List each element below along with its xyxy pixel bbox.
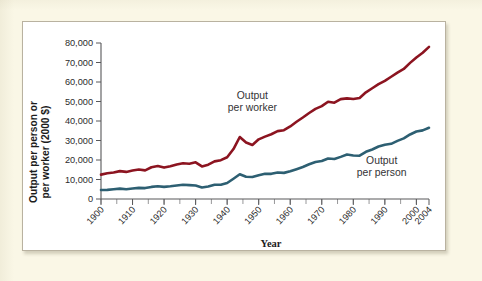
annotation-line1: Output: [237, 90, 268, 101]
y-tick-label: 80,000: [65, 38, 93, 48]
annotation-output-per-worker: Outputper worker: [228, 90, 278, 113]
x-tick-label: 1970: [305, 205, 326, 227]
y-axis-label: Output per person or per worker (2000 $): [28, 101, 51, 203]
y-tick-label: 30,000: [65, 136, 93, 146]
annotation-line2: per person: [357, 167, 407, 178]
x-tick-label: 1990: [369, 205, 390, 227]
x-tick-label: 1930: [179, 205, 200, 227]
y-axis-label-line2: per worker (2000 $): [40, 106, 51, 199]
y-tick-label: 10,000: [65, 175, 93, 185]
x-tick-label: 1980: [337, 205, 358, 227]
x-tick-label: 1900: [85, 205, 106, 227]
figure-panel: Output per person or per worker (2000 $)…: [22, 21, 446, 251]
annotation-line2: per worker: [228, 102, 278, 113]
x-tick-label: 1950: [242, 205, 263, 227]
y-tick-label: 70,000: [65, 58, 93, 68]
series-annotations: Outputper workerOutputper person: [228, 90, 407, 179]
x-tick-label: 1910: [116, 205, 137, 227]
y-tick-label: 40,000: [65, 116, 93, 126]
y-tick-label: 60,000: [65, 77, 93, 87]
annotation-output-per-person: Outputper person: [357, 155, 407, 178]
y-axis-label-line1: Output per person or: [28, 101, 39, 203]
x-tick-label: 1940: [211, 205, 232, 227]
y-tick-label: 20,000: [65, 155, 93, 165]
page-background: Output per person or per worker (2000 $)…: [0, 0, 482, 281]
x-axis-title: Year: [261, 238, 282, 249]
line-chart: Output per person or per worker (2000 $)…: [23, 22, 447, 252]
x-tick-label: 1920: [148, 205, 169, 227]
annotation-line1: Output: [366, 155, 397, 166]
y-tick-label: 0: [88, 194, 93, 204]
x-axis-ticks: 1900191019201930194019501960197019801990…: [85, 199, 434, 226]
y-axis-ticks: 010,00020,00030,00040,00050,00060,00070,…: [65, 38, 101, 204]
y-tick-label: 50,000: [65, 97, 93, 107]
x-tick-label: 1960: [274, 205, 295, 227]
